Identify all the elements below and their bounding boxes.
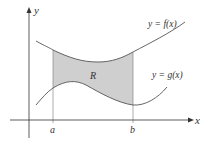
- bound-a-label: a: [50, 124, 55, 135]
- region-between-curves-diagram: y x y = f(x) y = g(x) R a b: [0, 0, 203, 146]
- x-axis-label: x: [194, 114, 200, 126]
- x-axis-arrow-icon: [188, 118, 194, 123]
- y-axis-arrow-icon: [27, 7, 32, 13]
- region-label: R: [89, 70, 96, 81]
- y-axis-label: y: [33, 4, 39, 16]
- bound-b-label: b: [130, 124, 135, 135]
- curve-g-label: y = g(x): [151, 70, 183, 81]
- curve-f-label: y = f(x): [147, 19, 177, 30]
